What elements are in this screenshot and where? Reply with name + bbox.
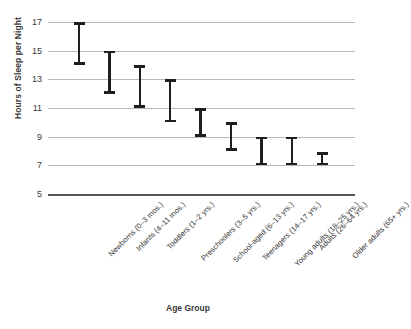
gridline: 17 xyxy=(48,22,355,23)
error-bar-stem xyxy=(169,79,172,122)
error-bar-upper-cap xyxy=(195,108,206,111)
error-bar-lower-cap xyxy=(317,163,328,166)
error-bar-upper-cap xyxy=(74,22,85,25)
error-bar-stem xyxy=(108,51,111,94)
error-bar-stem xyxy=(199,108,202,137)
error-bar-upper-cap xyxy=(256,137,267,140)
error-bar-lower-cap xyxy=(104,91,115,94)
error-bar-lower-cap xyxy=(134,105,145,108)
error-bar-stem xyxy=(230,122,233,151)
error-bar-upper-cap xyxy=(165,79,176,82)
axis-baseline: 5 xyxy=(48,194,355,196)
y-axis-tick-label: 17 xyxy=(32,17,42,27)
error-bar-upper-cap xyxy=(226,122,237,125)
x-axis-title: Age Group xyxy=(0,303,376,313)
y-axis-tick-label: 11 xyxy=(33,103,42,113)
y-axis-tick-label: 5 xyxy=(37,189,42,199)
error-bar-upper-cap xyxy=(286,137,297,140)
plot-area: 17151311975 xyxy=(48,22,355,194)
gridline: 9 xyxy=(48,137,355,138)
y-axis-tick-label: 13 xyxy=(32,74,42,84)
error-bar-lower-cap xyxy=(286,163,297,166)
y-axis-tick-label: 15 xyxy=(32,46,42,56)
error-bar-lower-cap xyxy=(226,148,237,151)
error-bar-lower-cap xyxy=(195,134,206,137)
error-bar-lower-cap xyxy=(256,163,267,166)
error-bar-lower-cap xyxy=(74,62,85,65)
y-axis-tick-label: 7 xyxy=(37,160,42,170)
error-bar-upper-cap xyxy=(317,152,328,155)
y-axis-tick-label: 9 xyxy=(37,132,42,142)
gridline: 15 xyxy=(48,51,355,52)
error-bar-upper-cap xyxy=(134,65,145,68)
gridline: 7 xyxy=(48,165,355,166)
y-axis-title: Hours of Sleep per Night xyxy=(13,0,23,138)
error-bar-stem xyxy=(260,137,263,166)
error-bar-upper-cap xyxy=(104,51,115,54)
error-bar-lower-cap xyxy=(165,120,176,123)
error-bar-stem xyxy=(139,65,142,108)
error-bar-stem xyxy=(78,22,81,65)
error-bar-stem xyxy=(291,137,294,166)
gridline: 13 xyxy=(48,79,355,80)
